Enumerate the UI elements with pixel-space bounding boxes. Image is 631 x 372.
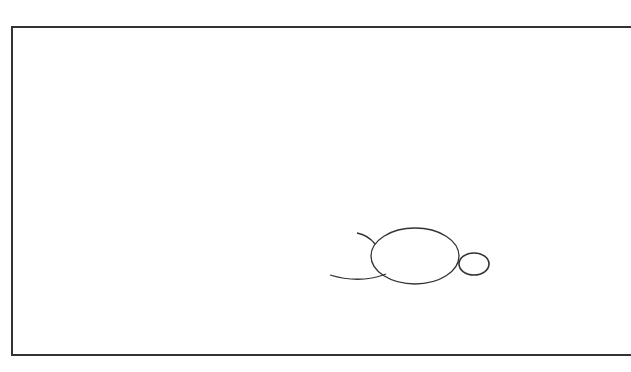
figure-head (459, 253, 489, 275)
figure-body (371, 228, 459, 284)
figure-upper-limb (357, 233, 375, 244)
figure-lower-limb (330, 274, 386, 279)
